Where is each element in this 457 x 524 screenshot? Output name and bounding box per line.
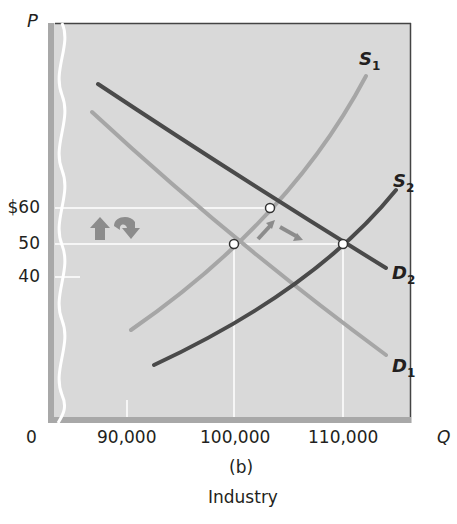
label-d2-sub: 2 [407, 273, 415, 287]
label-d1-main: D [392, 355, 407, 376]
y-axis [48, 23, 54, 423]
y-axis-title: P [27, 10, 38, 31]
point-initial-equilibrium [230, 240, 239, 249]
label-s2-main: S [393, 170, 406, 191]
label-s1-sub: 1 [372, 59, 380, 73]
label-s1-main: S [359, 48, 372, 69]
label-d2-main: D [392, 262, 407, 283]
label-s2-sub: 2 [406, 181, 414, 195]
x-axis-title: Q [437, 427, 450, 447]
x-tick-110000: 110,000 [308, 427, 378, 447]
y-tick-40: 40 [18, 266, 40, 286]
x-tick-100000: 100,000 [200, 427, 270, 447]
label-d1: D1 [392, 355, 415, 376]
x-tick-90000: 90,000 [97, 427, 156, 447]
x-axis [48, 417, 411, 423]
label-s1: S1 [359, 48, 380, 69]
y-tick-60: $60 [8, 197, 40, 217]
label-d2: D2 [392, 262, 415, 283]
label-s2: S2 [393, 170, 414, 191]
point-short-run-equilibrium [266, 204, 275, 213]
label-d1-sub: 1 [407, 366, 415, 380]
y-tick-50: 50 [18, 233, 40, 253]
origin-label: 0 [26, 427, 37, 447]
figure-subtitle: Industry [208, 487, 278, 507]
point-long-run-equilibrium [339, 240, 348, 249]
figure-caption: (b) [229, 457, 253, 477]
